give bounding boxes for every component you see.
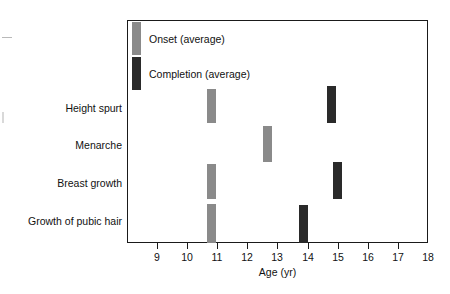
legend-label-completion: Completion (average) [149, 68, 250, 80]
legend-label-onset: Onset (average) [149, 33, 225, 45]
category-label-growth-of-pubic-hair: Growth of pubic hair [0, 215, 122, 227]
x-tick-label-11: 11 [205, 251, 229, 263]
category-label-height-spurt: Height spurt [0, 102, 122, 114]
x-tick-label-16: 16 [356, 251, 380, 263]
x-tick-15 [338, 243, 339, 249]
bar-height-spurt-onset [207, 89, 216, 123]
plot-area [127, 20, 428, 243]
bar-menarche-onset [263, 126, 272, 162]
x-tick-10 [187, 243, 188, 249]
x-axis-title: Age (yr) [127, 266, 428, 278]
x-tick-label-10: 10 [175, 251, 199, 263]
legend-swatch-onset [132, 22, 141, 55]
x-tick-12 [247, 243, 248, 249]
bar-growth-of-pubic-hair-onset [207, 204, 216, 243]
x-tick-11 [217, 243, 218, 249]
x-tick-label-18: 18 [416, 251, 440, 263]
x-tick-label-13: 13 [265, 251, 289, 263]
bar-growth-of-pubic-hair-completion [299, 205, 308, 243]
x-tick-label-12: 12 [235, 251, 259, 263]
x-tick-label-17: 17 [386, 251, 410, 263]
x-tick-17 [398, 243, 399, 249]
x-tick-label-14: 14 [296, 251, 320, 263]
category-label-breast-growth: Breast growth [0, 177, 122, 189]
category-label-menarche: Menarche [0, 139, 122, 151]
bar-breast-growth-completion [333, 162, 342, 199]
x-tick-13 [277, 243, 278, 249]
x-tick-label-9: 9 [145, 251, 169, 263]
legend-swatch-completion [132, 57, 141, 90]
puberty-timeline-chart: Onset (average) Completion (average) Hei… [0, 0, 450, 294]
x-tick-14 [308, 243, 309, 249]
bar-breast-growth-onset [207, 164, 216, 199]
scan-artifact [2, 37, 12, 38]
bar-height-spurt-completion [327, 86, 336, 123]
x-tick-label-15: 15 [326, 251, 350, 263]
x-tick-16 [368, 243, 369, 249]
x-tick-9 [157, 243, 158, 249]
